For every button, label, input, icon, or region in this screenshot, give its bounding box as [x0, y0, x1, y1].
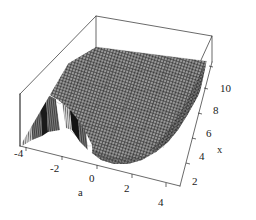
tick-label-a-3: 2 [124, 182, 130, 194]
plot-canvas: -4 -2 0 2 4 2 4 6 8 10 a x [0, 0, 256, 220]
axis-title-x: x [217, 144, 223, 155]
tick-label-x-4: 10 [220, 82, 232, 94]
tick-label-x-0: 2 [192, 175, 198, 187]
tick-label-a-2: 0 [89, 172, 95, 184]
tick-label-a-0: -4 [14, 147, 24, 159]
tick-label-x-2: 6 [206, 127, 212, 139]
tick-label-x-1: 4 [199, 150, 205, 162]
tick-label-x-3: 8 [213, 104, 219, 116]
tick-label-a-1: -2 [50, 162, 59, 174]
axis-title-a: a [78, 187, 83, 198]
surface-plot-figure: -4 -2 0 2 4 2 4 6 8 10 a x [0, 0, 256, 220]
tick-label-a-4: 4 [158, 196, 164, 208]
